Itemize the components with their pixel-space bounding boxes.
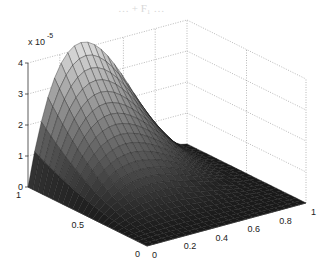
z-tick-label: 1 <box>18 151 23 161</box>
y-tick-label: 0 <box>135 249 140 259</box>
z-tick-label: 4 <box>18 58 23 68</box>
surface-mesh <box>28 42 306 246</box>
surface-plot: … + F₁ … 00.20.40.60.8100.5101234 x 10 -… <box>0 0 330 274</box>
x-tick-label: 1 <box>311 207 316 217</box>
x-tick-label: 0.8 <box>279 216 292 226</box>
z-tick-label: 0 <box>18 182 23 192</box>
x-tick-label: 0.6 <box>247 224 260 234</box>
z-exponent-power: -5 <box>47 32 53 39</box>
z-tick-label: 2 <box>18 120 23 130</box>
z-exponent-base: x 10 <box>28 37 45 47</box>
y-tick-label: 0.5 <box>72 220 85 230</box>
plot-title-faint: … + F₁ … <box>118 2 164 14</box>
z-exponent: x 10 -5 <box>28 32 53 47</box>
z-tick-label: 3 <box>18 89 23 99</box>
x-tick-label: 0.2 <box>184 241 197 251</box>
x-tick-label: 0.4 <box>216 233 229 243</box>
x-tick-label: 0 <box>152 250 157 260</box>
